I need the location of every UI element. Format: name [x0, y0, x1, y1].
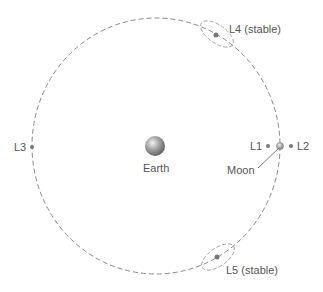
- moon-label: Moon: [227, 164, 255, 176]
- l4-point: [214, 33, 219, 38]
- earth-label: Earth: [143, 162, 169, 174]
- l1-label: L1: [250, 140, 262, 152]
- l3-label: L3: [14, 141, 26, 153]
- l5-point: [215, 255, 220, 260]
- moon-icon: [277, 143, 284, 150]
- l3-point: [30, 145, 34, 149]
- l1-point: [266, 144, 270, 148]
- l2-point: [289, 144, 293, 148]
- l5-label: L5 (stable): [226, 264, 278, 276]
- earth-icon: [145, 136, 165, 156]
- l2-label: L2: [297, 140, 309, 152]
- lagrange-diagram: [0, 0, 323, 292]
- l4-label: L4 (stable): [229, 23, 281, 35]
